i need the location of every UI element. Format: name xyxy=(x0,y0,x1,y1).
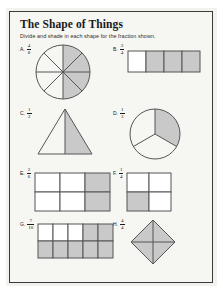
problem-row: A. 4 8 xyxy=(20,43,206,101)
problem-f: F. 1 4 xyxy=(113,167,206,212)
problem-letter: H. xyxy=(113,218,118,227)
problem-letter: A. xyxy=(20,43,25,52)
shape-grid-5x2[interactable] xyxy=(37,223,117,259)
problem-letter: B. xyxy=(113,43,118,52)
problems-grid: A. 4 8 xyxy=(20,43,206,266)
problem-letter: F. xyxy=(113,167,117,176)
fraction-denominator: 8 xyxy=(27,50,32,56)
fraction-numerator: 2 xyxy=(27,167,32,173)
fraction-label: 1 3 xyxy=(120,107,125,120)
worksheet-frame: The Shape of Things Divide and shade in … xyxy=(9,11,213,283)
fraction-numerator: 4 xyxy=(27,43,32,49)
problem-cell-c: C. 1 2 xyxy=(20,107,113,161)
problem-row: E. 2 6 xyxy=(20,167,206,212)
problem-cell-b: B. 3 4 xyxy=(113,43,206,101)
problem-c: C. 1 2 xyxy=(20,107,113,156)
fraction-label: 2 6 xyxy=(27,167,32,180)
worksheet-header: The Shape of Things Divide and shade in … xyxy=(20,18,204,40)
problem-letter: E. xyxy=(20,167,25,176)
fraction-numerator: 1 xyxy=(119,167,124,173)
shape-triangle-halves[interactable] xyxy=(35,107,95,156)
problem-cell-g: G. 7 10 xyxy=(20,218,113,266)
shape-rhombus-fourths[interactable] xyxy=(128,218,178,266)
shape-circle-eighths[interactable] xyxy=(34,43,92,101)
problem-b: B. 3 4 xyxy=(113,43,206,73)
fraction-label: 1 4 xyxy=(119,167,124,180)
problem-letter: C. xyxy=(20,107,25,116)
problem-cell-h: H. 4 4 xyxy=(113,218,206,266)
page-title: The Shape of Things xyxy=(20,18,204,31)
worksheet-page: The Shape of Things Divide and shade in … xyxy=(0,0,223,297)
problem-cell-a: A. 4 8 xyxy=(20,43,113,101)
shape-circle-thirds[interactable] xyxy=(128,107,182,161)
problem-letter: D. xyxy=(113,107,118,116)
fraction-label: 1 2 xyxy=(27,107,32,120)
fraction-denominator: 2 xyxy=(27,114,32,120)
shape-grid-3x2[interactable] xyxy=(34,172,113,212)
problem-row: G. 7 10 xyxy=(20,218,206,266)
shape-grid-2x2[interactable] xyxy=(126,172,172,212)
fraction-denominator: 4 xyxy=(120,225,125,231)
fraction-denominator: 6 xyxy=(27,174,32,180)
fraction-label: 4 8 xyxy=(27,43,32,56)
problem-a: A. 4 8 xyxy=(20,43,113,101)
fraction-denominator: 10 xyxy=(27,225,34,231)
fraction-numerator: 1 xyxy=(27,107,32,113)
fraction-denominator: 3 xyxy=(120,114,125,120)
fraction-label: 3 4 xyxy=(120,43,125,56)
shape-rectangle-fourths[interactable] xyxy=(127,50,201,73)
fraction-denominator: 4 xyxy=(119,174,124,180)
fraction-label: 7 10 xyxy=(27,218,34,231)
fraction-denominator: 4 xyxy=(120,50,125,56)
problem-row: C. 1 2 xyxy=(20,107,206,161)
problem-e: E. 2 6 xyxy=(20,167,113,212)
problem-h: H. 4 4 xyxy=(113,218,206,266)
problem-d: D. 1 3 xyxy=(113,107,206,161)
problem-cell-f: F. 1 4 xyxy=(113,167,206,212)
problem-cell-d: D. 1 3 xyxy=(113,107,206,161)
fraction-numerator: 3 xyxy=(120,43,125,49)
problem-cell-e: E. 2 6 xyxy=(20,167,113,212)
instructions-text: Divide and shade in each shape for the f… xyxy=(20,33,204,40)
fraction-numerator: 4 xyxy=(120,218,125,224)
fraction-numerator: 1 xyxy=(120,107,125,113)
problem-letter: G. xyxy=(20,218,25,227)
fraction-label: 4 4 xyxy=(120,218,125,231)
problem-g: G. 7 10 xyxy=(20,218,113,259)
fraction-numerator: 7 xyxy=(27,218,34,224)
